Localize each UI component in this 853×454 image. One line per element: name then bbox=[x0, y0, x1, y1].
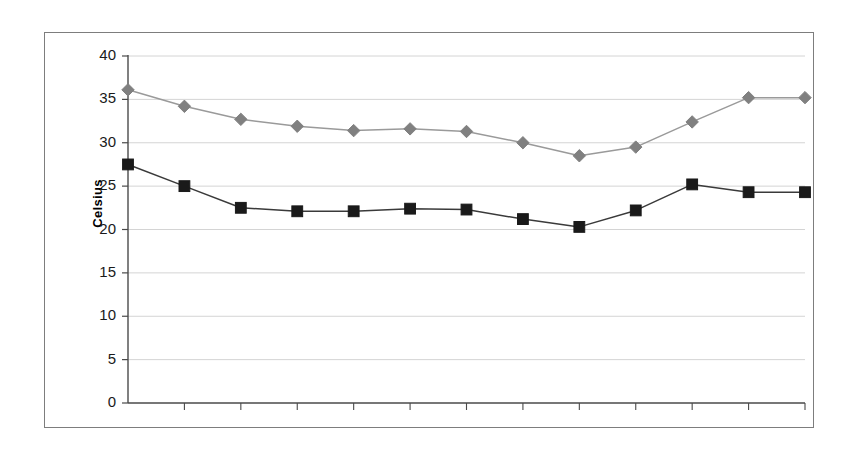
chart-container: Celsius 0510152025303540 bbox=[0, 0, 853, 454]
y-axis-tick-label: 35 bbox=[76, 89, 116, 106]
y-axis-tick-label: 10 bbox=[76, 306, 116, 323]
y-axis-tick-label: 0 bbox=[76, 393, 116, 410]
y-axis-tick-label: 20 bbox=[76, 220, 116, 237]
y-axis-tick-label: 30 bbox=[76, 133, 116, 150]
chart-plot-frame bbox=[44, 32, 814, 428]
y-axis-tick-label: 15 bbox=[76, 263, 116, 280]
y-axis-tick-label: 25 bbox=[76, 176, 116, 193]
y-axis-tick-label: 40 bbox=[76, 46, 116, 63]
y-axis-tick-label: 5 bbox=[76, 350, 116, 367]
